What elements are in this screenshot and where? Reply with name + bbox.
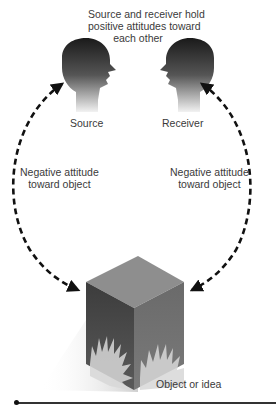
receiver-label: Receiver xyxy=(162,117,203,129)
top-caption: Source and receiver hold positive attitu… xyxy=(88,8,188,44)
right-arrow-label: Negative attitude toward object xyxy=(170,166,249,190)
source-label: Source xyxy=(70,117,103,129)
left-arrow-label: Negative attitude toward object xyxy=(20,166,99,190)
bottom-rule xyxy=(16,402,276,404)
object-label: Object or idea xyxy=(156,378,221,390)
object-box-icon xyxy=(86,256,184,390)
rule-dot xyxy=(14,400,19,405)
receiver-head-icon xyxy=(160,38,214,112)
source-head-icon xyxy=(62,38,116,112)
balance-theory-diagram xyxy=(0,0,276,406)
